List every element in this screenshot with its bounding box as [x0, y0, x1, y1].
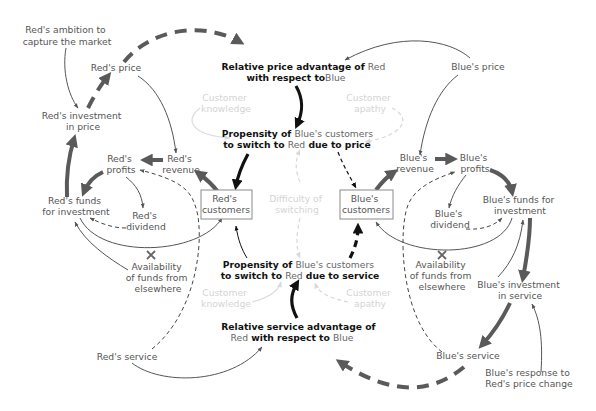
link-funds-to-investment [67, 139, 74, 197]
link-blue-customers-to-revenue [376, 172, 394, 190]
node-blue-funds: Blue's funds for investment [483, 194, 558, 216]
link-service-advantage-to-propensity [292, 283, 297, 318]
link-difficulty-down [297, 218, 300, 258]
node-propensity-service: Propensity of Blue's customers to switch… [221, 259, 380, 281]
node-propensity-price: Propensity of Blue's customers to switch… [222, 128, 376, 150]
link-propensity-service-to-blue-customers [350, 227, 358, 258]
link-propensity-service-to-red-customers [236, 226, 247, 258]
link-price-advantage-to-propensity [296, 86, 302, 125]
link-blue-funds-to-investment [523, 218, 530, 278]
node-blue-profits: Blue's profits [460, 152, 491, 174]
node-customer-knowledge-bottom: Customer knowledge [201, 287, 251, 309]
node-red-price: Red's price [91, 62, 142, 73]
cross-icon-blue [438, 251, 446, 259]
node-customer-apathy-bottom: Customer apathy [346, 287, 394, 309]
node-blue-dividend: Blue's dividend [430, 208, 470, 230]
link-blue-response-to-investment [532, 304, 542, 372]
link-red-service-to-profits [140, 170, 199, 349]
node-red-service: Red's service [97, 351, 158, 362]
link-customer-knowledge-bottom [252, 282, 281, 302]
node-blue-availability: Availability of funds from elsewhere [410, 259, 475, 292]
link-customers-to-revenue [198, 173, 218, 192]
node-red-dividend: Red's dividend [126, 210, 166, 232]
link-investment-to-price [88, 76, 108, 108]
link-profits-to-dividend [126, 177, 143, 208]
link-blue-service-to-advantage [340, 362, 464, 387]
node-blue-response: Blue's response to Red's price change [485, 367, 573, 389]
node-blue-investment-service: Blue's investment in service [477, 279, 562, 301]
node-red-availability: Availability of funds from elsewhere [126, 261, 191, 294]
link-propensity-price-to-red-customers [236, 154, 248, 186]
node-blue-revenue: Blue's revenue [396, 152, 434, 174]
link-blue-availability-to-funds [498, 220, 523, 277]
link-profits-to-funds [84, 172, 103, 192]
node-difficulty-switching: Difficulty of switching [269, 193, 325, 215]
node-service-advantage: Relative service advantage of Red with r… [221, 321, 378, 343]
node-price-advantage: Relative price advantage of Red with res… [221, 61, 388, 83]
link-propensity-price-to-blue-customers-visible [338, 152, 356, 188]
link-blue-dividend-to-funds [466, 218, 502, 229]
link-customer-apathy-bottom [315, 283, 348, 302]
node-red-revenue: Red's revenue [162, 153, 200, 175]
link-red-price-to-advantage [124, 30, 240, 62]
cross-icon-red [147, 251, 155, 259]
link-red-price-to-revenue [138, 76, 176, 153]
node-red-investment-price: Red's investment in price [42, 110, 125, 132]
link-blue-price-to-revenue [420, 75, 458, 155]
link-blue-investment-to-service [482, 303, 510, 345]
link-blue-price-to-advantage [345, 41, 470, 60]
node-customer-knowledge-top: Customer knowledge [201, 92, 251, 114]
link-blue-profits-to-funds [490, 170, 512, 192]
node-red-funds: Red's funds for investment [42, 195, 110, 217]
node-blue-price: Blue's price [451, 61, 505, 72]
link-availability-to-funds [75, 222, 128, 270]
causal-loop-diagram: Red's ambition to capture the market Red… [0, 0, 596, 411]
link-dividend-to-funds [90, 218, 126, 228]
node-red-ambition: Red's ambition to capture the market [23, 24, 112, 47]
link-ambition-to-investment [65, 48, 78, 108]
link-blue-profits-to-dividend [449, 175, 466, 208]
node-blue-service: Blue's service [436, 350, 500, 361]
link-difficulty-up [296, 150, 300, 182]
node-red-profits: Red's profits [106, 153, 135, 175]
node-customer-apathy-top: Customer apathy [346, 92, 394, 114]
